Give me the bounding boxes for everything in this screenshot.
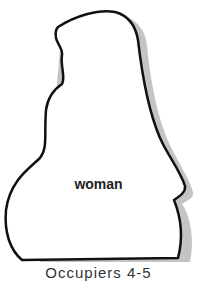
- shape-label: woman: [0, 176, 197, 192]
- figure-caption: Occupiers 4-5: [0, 264, 197, 281]
- silhouette-outline: [6, 11, 185, 260]
